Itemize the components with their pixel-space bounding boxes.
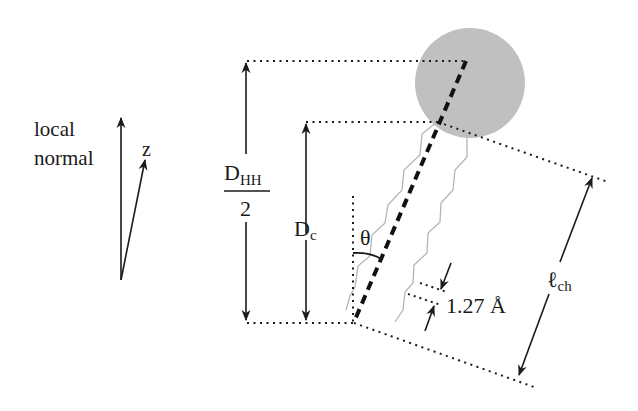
lipid-geometry-diagram: local normal z 1.27 Å DHH 2 Dc θ	[0, 0, 638, 411]
z-axis-label: z	[142, 138, 151, 160]
local-normal-label-line1: local	[34, 117, 75, 141]
chain-length-top-line	[438, 122, 608, 182]
local-normal-label-line2: normal	[34, 146, 94, 170]
dhh-half-label: DHH 2	[224, 160, 270, 221]
spacing-arrow-bottom	[425, 306, 434, 331]
lch-label: ℓch	[547, 267, 572, 294]
dc-label: Dc	[294, 216, 317, 243]
local-normal-axes: local normal z	[34, 117, 151, 280]
lch-arrow-down	[519, 294, 549, 375]
theta-label: θ	[360, 225, 371, 250]
spacing-arrow-top	[441, 263, 451, 289]
spacing-label: 1.27 Å	[446, 293, 506, 318]
hydrocarbon-chain-left	[346, 121, 438, 310]
dhh-denominator: 2	[240, 196, 251, 221]
chain-length-bottom-line	[354, 323, 534, 387]
lch-arrow-up	[560, 178, 592, 262]
dhh-numerator: DHH	[224, 160, 262, 188]
z-axis-arrow	[121, 160, 145, 280]
spacing-tick-lower	[408, 294, 441, 305]
